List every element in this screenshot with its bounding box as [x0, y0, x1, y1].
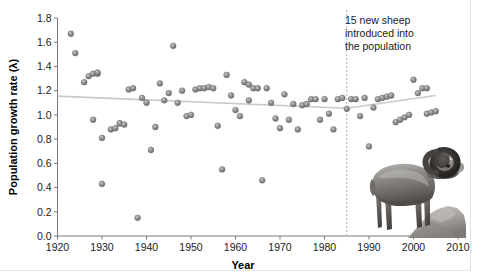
- data-point: [424, 85, 430, 91]
- data-point: [237, 113, 243, 119]
- data-point: [219, 166, 225, 172]
- data-point: [331, 127, 337, 133]
- y-tick-label-1.2: 1.2: [37, 84, 52, 96]
- data-point: [406, 112, 412, 118]
- annotation-line-1: 15 new sheep: [345, 14, 411, 26]
- data-point: [210, 85, 216, 91]
- x-tick-label-2010: 2010: [446, 241, 470, 253]
- x-tick-label-1920: 1920: [46, 241, 70, 253]
- y-tick-label-1.6: 1.6: [37, 36, 52, 48]
- data-point: [282, 91, 288, 97]
- data-point: [304, 101, 310, 107]
- data-point: [371, 105, 377, 111]
- y-tick-label-0.4: 0.4: [37, 181, 52, 193]
- data-point: [255, 85, 261, 91]
- data-point: [95, 70, 101, 76]
- data-point: [344, 106, 350, 112]
- x-tick-label-1950: 1950: [179, 241, 203, 253]
- data-point: [81, 79, 87, 85]
- data-point: [90, 117, 96, 123]
- y-tick-label-0.6: 0.6: [37, 157, 52, 169]
- y-tick-label-1.4: 1.4: [37, 60, 52, 72]
- data-point: [259, 177, 265, 183]
- x-tick-label-1980: 1980: [313, 241, 337, 253]
- data-point: [175, 100, 181, 106]
- data-point: [388, 93, 394, 99]
- data-point: [273, 116, 279, 122]
- bighorn-sheep-photo: [356, 145, 466, 238]
- data-point: [362, 95, 368, 101]
- data-point: [215, 123, 221, 129]
- data-point: [246, 97, 252, 103]
- data-point: [339, 95, 345, 101]
- data-point: [286, 117, 292, 123]
- data-point: [290, 101, 296, 107]
- data-point: [179, 88, 185, 94]
- data-point: [148, 147, 154, 153]
- data-point: [317, 117, 323, 123]
- data-point: [295, 127, 301, 133]
- x-axis-tick-labels: 1920193019401950196019701980199020002010: [46, 241, 470, 253]
- data-point: [135, 215, 141, 221]
- data-point: [357, 113, 363, 119]
- x-tick-label-1970: 1970: [268, 241, 292, 253]
- data-point: [188, 112, 194, 118]
- data-point: [224, 72, 230, 78]
- data-point: [99, 135, 105, 141]
- y-tick-label-0.8: 0.8: [37, 133, 52, 145]
- x-tick-label-2000: 2000: [402, 241, 426, 253]
- y-tick-label-1.0: 1.0: [37, 109, 52, 121]
- data-point: [313, 96, 319, 102]
- data-point: [99, 181, 105, 187]
- data-point: [326, 111, 332, 117]
- figure-container: 1920193019401950196019701980199020002010…: [0, 0, 483, 279]
- x-tick-label-1930: 1930: [90, 241, 114, 253]
- y-axis-title: Population growth rate (λ): [7, 59, 19, 196]
- data-point: [415, 90, 421, 96]
- data-point: [264, 85, 270, 91]
- data-point: [68, 31, 74, 37]
- data-point: [277, 125, 283, 131]
- data-point: [130, 85, 136, 91]
- data-point: [433, 108, 439, 114]
- event-annotation: 15 new sheep introduced into the populat…: [345, 14, 414, 52]
- data-point: [153, 124, 159, 130]
- x-tick-label-1940: 1940: [135, 241, 159, 253]
- data-point: [170, 43, 176, 49]
- x-axis-title: Year: [231, 259, 255, 271]
- data-point: [144, 100, 150, 106]
- data-point: [139, 95, 145, 101]
- data-point: [166, 90, 172, 96]
- annotation-line-2: introduced into: [345, 27, 414, 39]
- data-point: [353, 96, 359, 102]
- sheep-eye: [446, 164, 450, 167]
- y-axis-tick-labels: 0.00.20.40.60.81.01.21.41.61.8: [37, 12, 52, 242]
- data-point: [268, 100, 274, 106]
- y-tick-label-0.0: 0.0: [37, 230, 52, 242]
- data-point: [322, 96, 328, 102]
- data-point: [161, 97, 167, 103]
- data-point: [72, 50, 78, 56]
- annotation-line-3: the population: [345, 40, 411, 52]
- data-point: [228, 93, 234, 99]
- data-point: [157, 81, 163, 87]
- data-point: [112, 125, 118, 131]
- y-tick-label-1.8: 1.8: [37, 12, 52, 24]
- y-tick-label-0.2: 0.2: [37, 206, 52, 218]
- data-point: [233, 107, 239, 113]
- data-point: [411, 77, 417, 83]
- x-tick-label-1960: 1960: [224, 241, 248, 253]
- data-point: [121, 122, 127, 128]
- x-tick-label-1990: 1990: [357, 241, 381, 253]
